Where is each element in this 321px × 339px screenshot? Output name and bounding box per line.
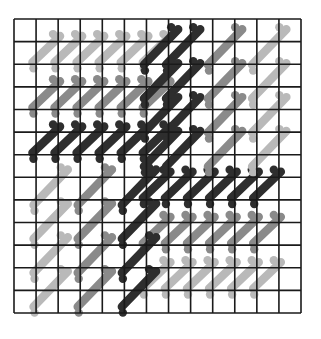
stitch-diagram (0, 0, 321, 339)
